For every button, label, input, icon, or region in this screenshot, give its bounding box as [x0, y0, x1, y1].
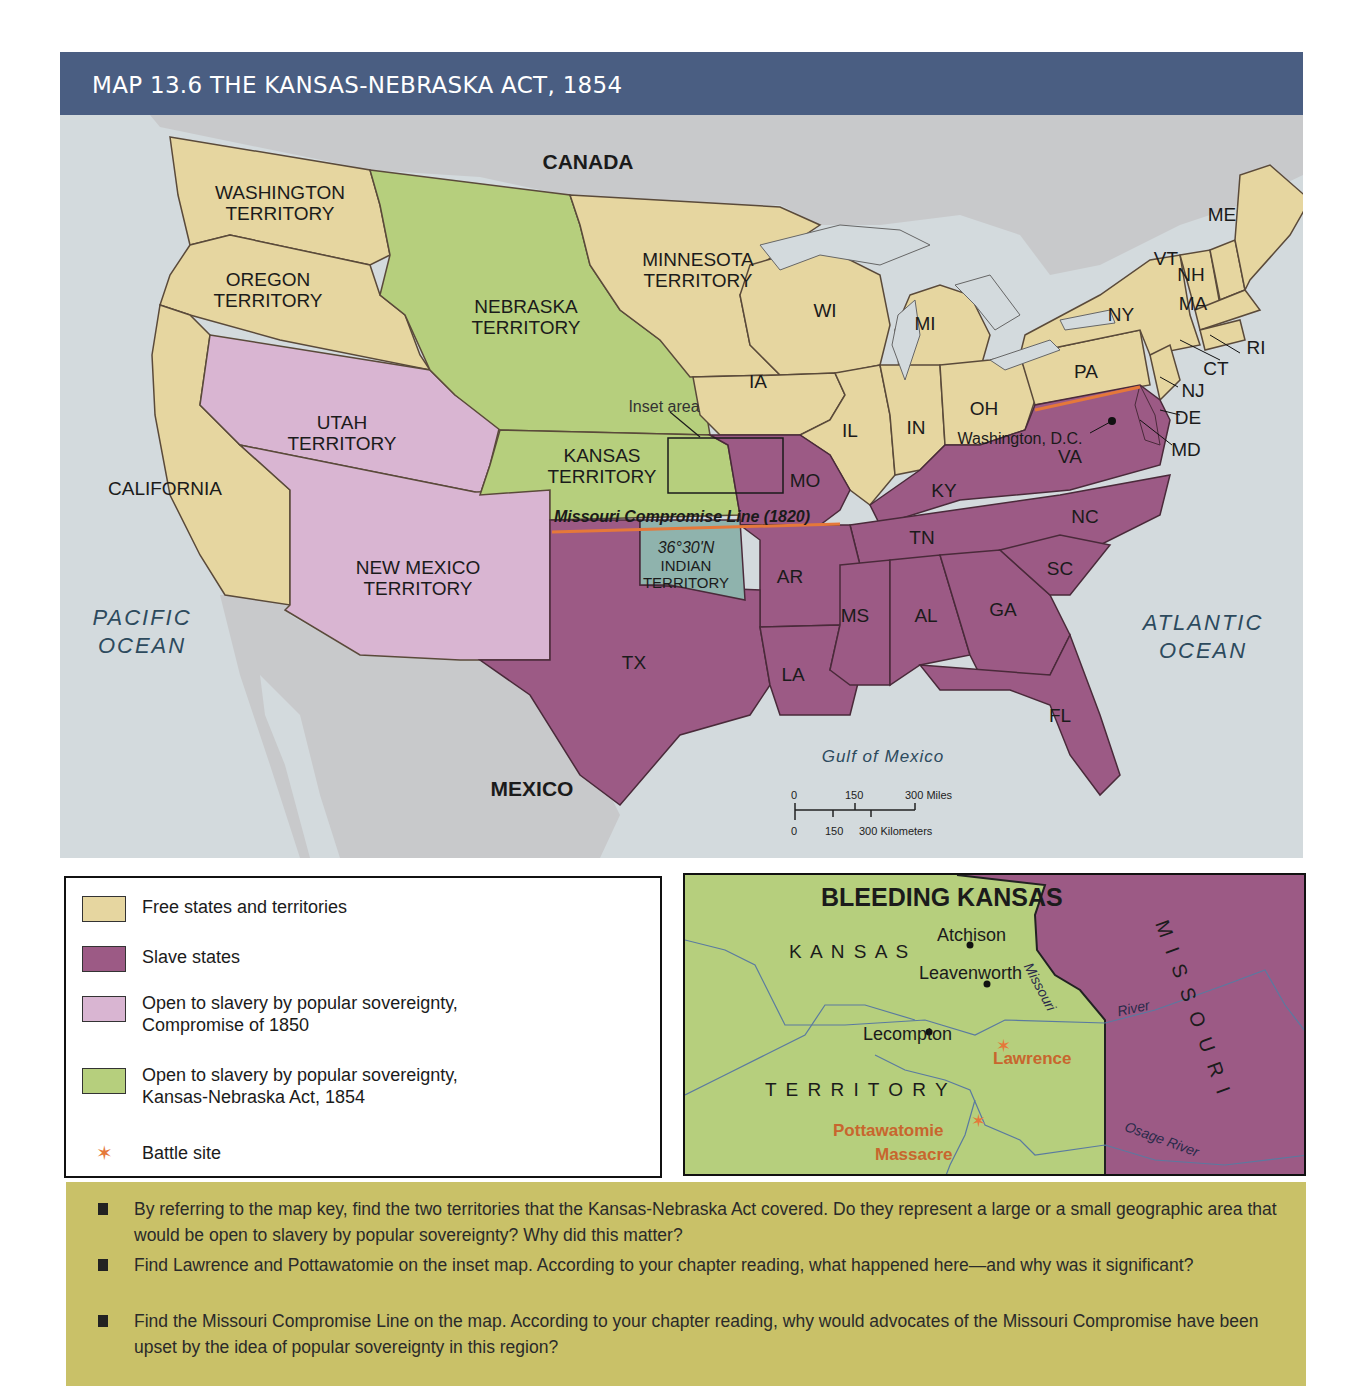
- inset-battle-massacre: Massacre: [875, 1145, 953, 1165]
- label-atlantic-ocean: ATLANTIC OCEAN: [1143, 609, 1264, 665]
- bullet-icon: [98, 1315, 108, 1327]
- map-title: MAP 13.6 THE KANSAS-NEBRASKA ACT, 1854: [92, 72, 622, 98]
- question-1: By referring to the map key, find the tw…: [100, 1196, 1280, 1248]
- map-title-bar: MAP 13.6 THE KANSAS-NEBRASKA ACT, 1854: [60, 52, 1303, 115]
- swatch-kansas-nebraska: [82, 1068, 126, 1094]
- map-legend: Free states and territories Slave states…: [64, 876, 662, 1178]
- label-nj: NJ: [1181, 380, 1204, 401]
- inset-shapes: [685, 875, 1306, 1176]
- scale-bar: 0 150 300 Miles 0 150 300 Kilometers: [791, 787, 991, 847]
- label-ms: MS: [841, 605, 870, 626]
- inset-city-leavenworth: Leavenworth: [919, 963, 1022, 984]
- review-questions: By referring to the map key, find the tw…: [66, 1182, 1306, 1386]
- scale-km-300: 300 Kilometers: [859, 825, 932, 837]
- scale-km-150: 150: [825, 825, 843, 837]
- label-fl: FL: [1049, 705, 1071, 726]
- label-oh: OH: [970, 398, 999, 419]
- pottawatomie-battle-star-icon: ✶: [971, 1110, 986, 1132]
- label-washington-territory: WASHINGTON TERRITORY: [215, 182, 345, 224]
- legend-label-battle-site: Battle site: [142, 1142, 221, 1164]
- legend-item-free: Free states and territories: [82, 896, 347, 922]
- label-wi: WI: [813, 300, 836, 321]
- label-la: LA: [781, 664, 804, 685]
- bleeding-kansas-inset: BLEEDING KANSAS K A N S A S T E R R I T …: [683, 873, 1306, 1176]
- new-jersey: [1150, 345, 1180, 400]
- label-pa: PA: [1074, 361, 1098, 382]
- legend-item-battle-site: ✶ Battle site: [82, 1142, 221, 1164]
- swatch-slave: [82, 946, 126, 972]
- label-vt: VT: [1154, 248, 1178, 269]
- scale-miles-150: 150: [845, 789, 863, 801]
- label-nh: NH: [1177, 264, 1204, 285]
- label-ky: KY: [931, 480, 956, 501]
- scale-miles-0: 0: [791, 789, 797, 801]
- question-2: Find Lawrence and Pottawatomie on the in…: [100, 1252, 1280, 1278]
- label-utah-territory: UTAH TERRITORY: [287, 412, 396, 454]
- map-shapes: [60, 115, 1303, 858]
- label-california: CALIFORNIA: [108, 478, 222, 499]
- label-mo: MO: [790, 470, 821, 491]
- label-indian-territory: INDIAN TERRITORY: [643, 557, 729, 591]
- label-nc: NC: [1071, 506, 1098, 527]
- inset-battle-lawrence: Lawrence: [993, 1049, 1071, 1069]
- question-3-text: Find the Missouri Compromise Line on the…: [100, 1308, 1280, 1360]
- legend-item-kansas-nebraska: Open to slavery by popular sovereignty, …: [82, 1064, 458, 1108]
- label-inset-area: Inset area: [628, 396, 699, 417]
- battle-star-icon: ✶: [82, 1142, 126, 1164]
- label-mexico: MEXICO: [491, 778, 574, 799]
- label-tn: TN: [909, 527, 934, 548]
- bullet-icon: [98, 1203, 108, 1215]
- label-ct: CT: [1203, 358, 1228, 379]
- label-missouri-compromise-line: Missouri Compromise Line (1820): [554, 508, 810, 526]
- label-al: AL: [914, 605, 937, 626]
- label-in: IN: [907, 417, 926, 438]
- inset-city-lecompton: Lecompton: [863, 1024, 952, 1045]
- label-washington-dc: Washington, D.C.: [958, 428, 1083, 449]
- legend-label-free: Free states and territories: [142, 896, 347, 918]
- label-new-mexico-territory: NEW MEXICO TERRITORY: [356, 557, 481, 599]
- label-canada: CANADA: [543, 151, 634, 172]
- swatch-free: [82, 896, 126, 922]
- inset-title: BLEEDING KANSAS: [821, 883, 1063, 912]
- label-md: MD: [1171, 439, 1201, 460]
- label-minnesota-territory: MINNESOTA TERRITORY: [642, 249, 754, 291]
- label-tx: TX: [622, 652, 646, 673]
- label-de: DE: [1175, 407, 1201, 428]
- question-3: Find the Missouri Compromise Line on the…: [100, 1308, 1280, 1360]
- legend-item-slave: Slave states: [82, 946, 240, 972]
- maine: [1235, 165, 1303, 290]
- scale-miles-300: 300 Miles: [905, 789, 952, 801]
- label-kansas-territory: KANSAS TERRITORY: [547, 445, 656, 487]
- label-ri: RI: [1247, 337, 1266, 358]
- inset-label-territory: T E R R I T O R Y: [765, 1079, 950, 1101]
- legend-item-compromise-1850: Open to slavery by popular sovereignty, …: [82, 992, 458, 1036]
- main-map: CANADA MEXICO PACIFIC OCEAN ATLANTIC OCE…: [60, 115, 1303, 858]
- label-oregon-territory: OREGON TERRITORY: [213, 269, 322, 311]
- label-mi: MI: [914, 313, 935, 334]
- label-gulf-of-mexico: Gulf of Mexico: [822, 743, 945, 771]
- bullet-icon: [98, 1259, 108, 1271]
- scale-km-0: 0: [791, 825, 797, 837]
- inset-battle-pottawatomie: Pottawatomie: [833, 1121, 944, 1141]
- legend-label-compromise-1850: Open to slavery by popular sovereignty, …: [142, 992, 458, 1036]
- label-sc: SC: [1047, 558, 1073, 579]
- inset-city-atchison: Atchison: [937, 925, 1006, 946]
- label-va: VA: [1058, 446, 1082, 467]
- label-ma: MA: [1179, 293, 1208, 314]
- label-ga: GA: [989, 599, 1016, 620]
- label-latitude: 36°30'N: [658, 537, 715, 558]
- label-ar: AR: [777, 566, 803, 587]
- inset-label-kansas: K A N S A S: [789, 941, 910, 963]
- label-nebraska-territory: NEBRASKA TERRITORY: [471, 296, 580, 338]
- label-ny: NY: [1108, 304, 1134, 325]
- label-il: IL: [842, 420, 858, 441]
- legend-label-slave: Slave states: [142, 946, 240, 968]
- legend-label-kansas-nebraska: Open to slavery by popular sovereignty, …: [142, 1064, 458, 1108]
- question-1-text: By referring to the map key, find the tw…: [100, 1196, 1280, 1248]
- swatch-compromise-1850: [82, 996, 126, 1022]
- label-me: ME: [1208, 204, 1237, 225]
- label-pacific-ocean: PACIFIC OCEAN: [92, 604, 191, 660]
- label-ia: IA: [749, 371, 767, 392]
- question-2-text: Find Lawrence and Pottawatomie on the in…: [100, 1252, 1280, 1278]
